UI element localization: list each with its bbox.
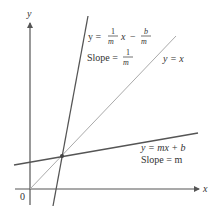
inverse-line xyxy=(53,16,88,206)
inverse-slope-den: m xyxy=(123,58,129,67)
inverse-frac1-den: m xyxy=(108,37,114,46)
inverse-frac2-den: m xyxy=(141,37,147,46)
inverse-frac2-num: b xyxy=(144,27,148,36)
inverse-eq-prefix: y = xyxy=(88,31,102,42)
inverse-slope-num: 1 xyxy=(126,48,130,57)
inverse-slope-prefix: Slope = xyxy=(87,52,118,63)
origin-label: 0 xyxy=(20,191,25,202)
x-axis-label: x xyxy=(202,183,208,194)
linear-slope-label: Slope = m xyxy=(141,154,182,165)
function-inverse-diagram: y x 0 y = 1 m x − b m Slope = 1 m y = x … xyxy=(0,0,216,215)
inverse-frac1-num: 1 xyxy=(111,27,115,36)
intersection-point xyxy=(60,154,64,158)
y-axis-label: y xyxy=(26,8,32,19)
identity-line-label: y = x xyxy=(162,53,184,64)
linear-eq-label: y = mx + b xyxy=(140,142,186,153)
inverse-eq-minus: − xyxy=(130,31,136,42)
inverse-eq-x: x xyxy=(120,31,126,42)
